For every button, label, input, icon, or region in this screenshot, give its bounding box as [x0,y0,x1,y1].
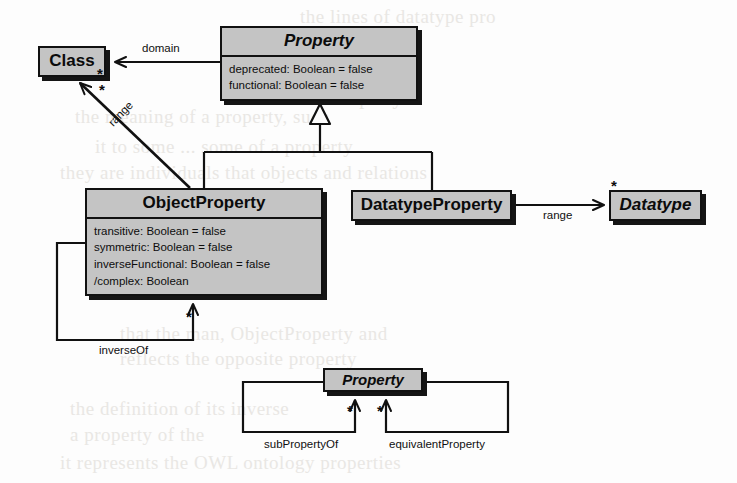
uml-class-datatype[interactable]: Datatype [609,190,702,221]
attribute-row: transitive: Boolean = false [94,223,315,240]
class-name-label: Datatype [611,192,700,219]
multiplicity-range-object: * [99,82,105,97]
uml-class-objectproperty[interactable]: ObjectProperty transitive: Boolean = fal… [85,188,323,296]
class-name-label: Property [325,370,421,390]
attribute-row: deprecated: Boolean = false [229,61,410,78]
uml-diagram-canvas: the lines of datatype proPropertythe mea… [0,0,737,483]
class-name-label: DatatypeProperty [353,192,510,219]
class-name-label: Property [222,28,416,55]
generalization-triangle [310,104,330,124]
class-name-label: ObjectProperty [87,190,321,217]
multiplicity-inverseof: * [186,309,192,324]
multiplicity-subpropertyof: * [347,403,353,418]
association-range-object [80,83,190,188]
uml-class-datatypeproperty[interactable]: DatatypeProperty [351,190,512,221]
edge-label-equivalentproperty: equivalentProperty [389,438,485,450]
attribute-row: functional: Boolean = false [229,77,410,94]
generalization-tree [204,104,432,190]
attribute-compartment: transitive: Boolean = false symmetric: B… [87,217,321,295]
class-name-label: Class [40,48,104,75]
attribute-row: /complex: Boolean [94,273,315,290]
multiplicity-domain: * [97,66,103,81]
edge-label-subpropertyof: subPropertyOf [264,438,338,450]
multiplicity-range-datatype: * [611,178,617,193]
edge-label-domain: domain [142,42,180,54]
attribute-row: symmetric: Boolean = false [94,239,315,256]
attribute-compartment: deprecated: Boolean = false functional: … [222,55,416,99]
edge-label-inverseof: inverseOf [99,344,148,356]
attribute-row: inverseFunctional: Boolean = false [94,256,315,273]
uml-class-property-bottom[interactable]: Property [323,368,423,392]
uml-class-property-top[interactable]: Property deprecated: Boolean = false fun… [220,26,418,101]
multiplicity-equivalentproperty: * [377,403,383,418]
edge-label-range-datatype: range [543,209,572,221]
uml-class-class[interactable]: Class [38,46,106,77]
